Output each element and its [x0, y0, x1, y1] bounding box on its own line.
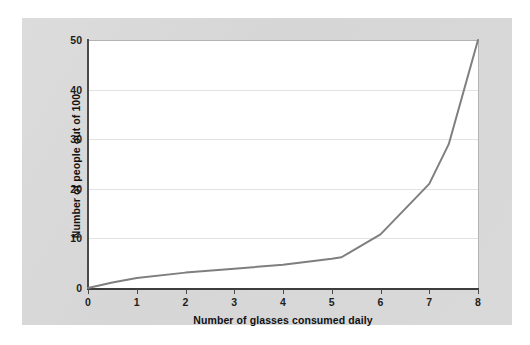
x-tick-mark-7 [429, 289, 430, 294]
x-tick-label-3: 3 [224, 296, 244, 308]
x-tick-mark-1 [137, 289, 138, 294]
plot-area [88, 40, 478, 288]
x-tick-label-6: 6 [371, 296, 391, 308]
x-tick-label-5: 5 [322, 296, 342, 308]
x-tick-mark-2 [186, 289, 187, 294]
chart-page: 01020304050 Number of people out of 100 … [0, 0, 530, 345]
x-tick-mark-0 [88, 289, 89, 294]
x-tick-label-1: 1 [127, 296, 147, 308]
x-tick-label-4: 4 [273, 296, 293, 308]
x-tick-mark-3 [234, 289, 235, 294]
y-axis-line [87, 39, 89, 289]
x-tick-label-0: 0 [78, 296, 98, 308]
y-axis-title-wrapper: Number of people out of 100 [36, 40, 52, 288]
x-axis-title: Number of glasses consumed daily [88, 314, 478, 326]
gridline-y-40 [88, 90, 478, 91]
x-tick-label-2: 2 [176, 296, 196, 308]
x-tick-label-7: 7 [419, 296, 439, 308]
x-tick-mark-6 [381, 289, 382, 294]
y-tick-label-0: 0 [56, 283, 82, 293]
x-tick-mark-5 [332, 289, 333, 294]
y-tick-label-50: 50 [56, 35, 82, 45]
gridline-y-20 [88, 189, 478, 190]
x-tick-label-8: 8 [468, 296, 488, 308]
y-axis-title: Number of people out of 100 [70, 71, 82, 261]
gridline-y-10 [88, 238, 478, 239]
x-tick-mark-8 [478, 289, 479, 294]
x-tick-mark-4 [283, 289, 284, 294]
gridline-y-30 [88, 139, 478, 140]
